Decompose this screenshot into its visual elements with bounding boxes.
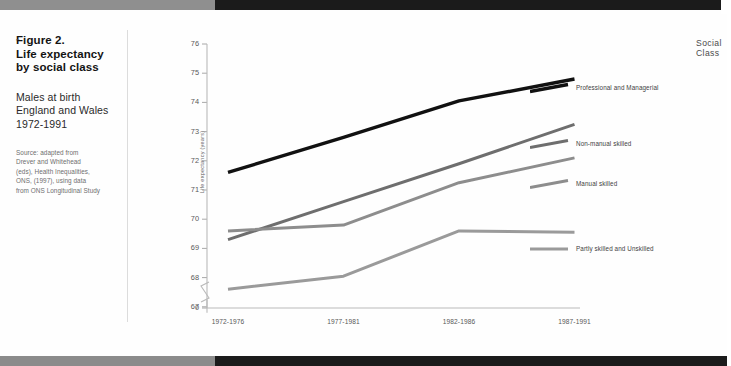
legend-label-0: Professional and Managerial (576, 84, 659, 91)
series-line-1 (228, 124, 575, 239)
figure-subtitle-line-1: Males at birth (16, 91, 120, 105)
figure-source-note: Source: adapted from Drever and Whitehea… (16, 148, 120, 195)
legend-swatch-2 (530, 178, 570, 190)
page-right-edge (727, 0, 731, 366)
scan-artifact-top (0, 0, 731, 10)
legend-label-1: Non-manual skilled (576, 140, 631, 147)
legend-entry-0: Professional and Managerial (530, 82, 659, 94)
figure-title-line-1: Figure 2. (16, 34, 120, 48)
scan-artifact-bottom-grey (0, 356, 215, 366)
legend-swatch-3 (530, 243, 570, 255)
figure-source-line-2: Drever and Whitehead (16, 157, 120, 166)
figure-source-line-4: ONS, (1997), using data (16, 176, 120, 185)
figure-subtitle: Males at birth England and Wales 1972-19… (16, 91, 120, 132)
legend-entry-1: Non-manual skilled (530, 138, 631, 150)
figure-source-line-1: Source: adapted from (16, 148, 120, 157)
legend-swatch-1 (530, 138, 570, 150)
scan-artifact-bottom (0, 356, 731, 366)
scan-artifact-bottom-black (215, 356, 731, 366)
legend-swatch-0 (530, 82, 570, 94)
legend-title: Social Class (696, 38, 725, 58)
series-line-2 (228, 158, 575, 231)
caption-tick-glyph: ⌐ (16, 36, 20, 42)
figure-title-line-2: Life expectancy (16, 48, 120, 62)
page-corner-fold (721, 0, 731, 14)
figure-title: Figure 2. Life expectancy by social clas… (16, 34, 120, 75)
line-chart: Life expectancy (years) 0676869707172737… (160, 30, 720, 330)
figure-source-line-3: (eds), Health Inequalities, (16, 167, 120, 176)
legend-entry-3: Partly skilled and Unskilled (530, 243, 654, 255)
figure-source-line-5: from ONS Longitudinal Study (16, 186, 120, 195)
legend-label-3: Partly skilled and Unskilled (576, 245, 654, 252)
caption-block: ⌐ Figure 2. Life expectancy by social cl… (16, 34, 120, 195)
plot-area (160, 30, 720, 330)
legend-entry-2: Manual skilled (530, 178, 617, 190)
series-line-0 (228, 79, 575, 172)
scan-artifact-top-grey (0, 0, 215, 10)
caption-divider (127, 30, 128, 322)
scan-artifact-top-black (215, 0, 731, 10)
figure-title-line-3: by social class (16, 61, 120, 75)
legend-label-2: Manual skilled (576, 180, 617, 187)
figure-subtitle-line-3: 1972-1991 (16, 118, 120, 132)
figure-page: ⌐ Figure 2. Life expectancy by social cl… (0, 0, 731, 366)
figure-subtitle-line-2: England and Wales (16, 104, 120, 118)
series-line-3 (228, 231, 575, 289)
